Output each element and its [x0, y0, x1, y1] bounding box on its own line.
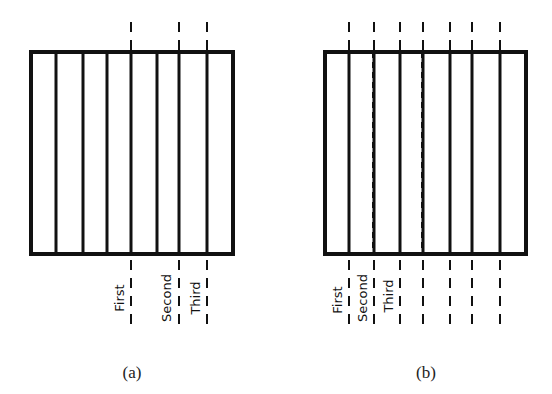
cut-label: Third	[188, 281, 203, 315]
panel-b: FirstSecondThird(b)	[325, 22, 526, 382]
cut-label: Second	[355, 274, 370, 322]
panel-caption: (a)	[123, 363, 142, 382]
cut-label: Second	[159, 274, 174, 322]
cut-label: First	[112, 284, 127, 311]
outer-box	[325, 52, 526, 254]
diagram-canvas: FirstSecondThird(a)FirstSecondThird(b)	[0, 0, 552, 394]
panel-a: FirstSecondThird(a)	[31, 22, 233, 382]
cut-label: Third	[381, 279, 396, 313]
cut-label: First	[330, 286, 345, 313]
panel-caption: (b)	[416, 363, 436, 382]
